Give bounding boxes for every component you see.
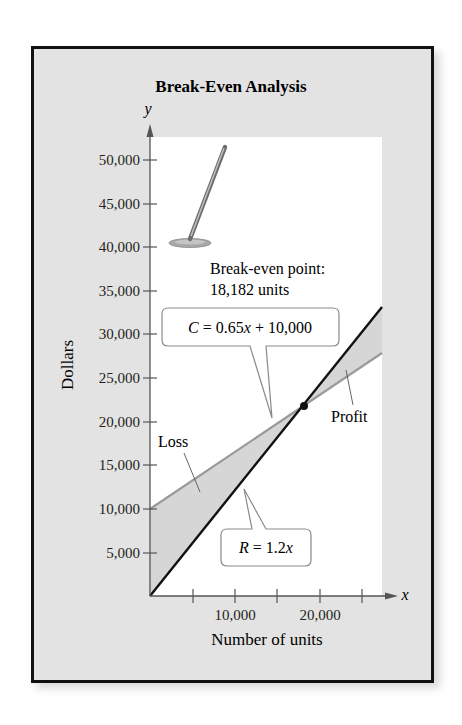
y-tick-label: 35,000 (99, 283, 140, 299)
x-axis-title: Number of units (211, 630, 322, 649)
x-tick-labels: 10,000 20,000 (214, 607, 340, 623)
y-tick-labels: 50,000 45,000 40,000 35,000 30,000 25,00… (99, 152, 140, 561)
x-tick-label: 20,000 (299, 607, 340, 623)
break-even-point (300, 402, 308, 410)
y-tick-label: 50,000 (99, 152, 140, 168)
break-even-label-line1: Break-even point: (210, 260, 325, 278)
x-axis-arrow-icon (385, 593, 398, 600)
y-tick-label: 20,000 (99, 414, 140, 430)
y-axis-arrow-icon (147, 124, 154, 137)
y-tick-label: 15,000 (99, 457, 140, 473)
chart-title: Break-Even Analysis (155, 77, 307, 96)
y-tick-label: 45,000 (99, 196, 140, 212)
break-even-chart: 50,000 45,000 40,000 35,000 30,000 25,00… (0, 0, 462, 725)
y-tick-label: 10,000 (99, 501, 140, 517)
cost-equation-text: C = 0.65x + 10,000 (188, 319, 312, 336)
loss-label: Loss (158, 433, 188, 450)
y-axis-symbol: y (142, 100, 152, 118)
profit-label: Profit (331, 408, 368, 425)
y-tick-label: 40,000 (99, 239, 140, 255)
break-even-label-line2: 18,182 units (210, 281, 289, 298)
y-tick-label: 25,000 (99, 370, 140, 386)
x-axis-symbol: x (400, 586, 408, 603)
y-tick-label: 5,000 (106, 545, 140, 561)
y-tick-label: 30,000 (99, 326, 140, 342)
x-tick-label: 10,000 (214, 607, 255, 623)
revenue-equation-text: R = 1.2x (238, 539, 293, 556)
y-axis-title: Dollars (58, 340, 77, 390)
